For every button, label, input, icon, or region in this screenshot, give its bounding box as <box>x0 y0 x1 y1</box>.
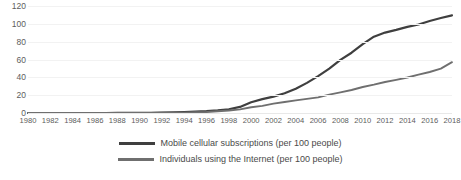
line-chart: 120100806040200 198019821984198619881990… <box>0 0 461 180</box>
x-axis-tick-label: 2002 <box>265 116 282 126</box>
y-axis-tick-label: 80 <box>0 38 26 47</box>
gridline <box>28 42 452 43</box>
plot-area <box>28 6 452 113</box>
chart-legend: Mobile cellular subscriptions (per 100 p… <box>0 138 461 178</box>
x-axis-tick-label: 1996 <box>198 116 215 126</box>
x-axis-tick-label: 1992 <box>153 116 170 126</box>
series-line <box>28 62 452 113</box>
x-axis-tick-label: 1988 <box>109 116 126 126</box>
x-axis-tick-label: 2014 <box>399 116 416 126</box>
legend-label-internet: Individuals using the Internet (per 100 … <box>159 154 342 165</box>
x-axis-tick-label: 2018 <box>444 116 461 126</box>
gridline <box>28 60 452 61</box>
x-axis-tick-label: 1982 <box>42 116 59 126</box>
gridline <box>28 6 452 7</box>
x-axis-tick-label: 1998 <box>220 116 237 126</box>
x-axis-tick-label: 2008 <box>332 116 349 126</box>
y-axis: 120100806040200 <box>0 0 26 120</box>
x-axis-tick-label: 2000 <box>243 116 260 126</box>
x-axis-tick-label: 2004 <box>287 116 304 126</box>
legend-swatch-internet <box>118 158 154 161</box>
x-axis-tick-label: 2012 <box>377 116 394 126</box>
gridline <box>28 24 452 25</box>
x-axis-tick-label: 1986 <box>86 116 103 126</box>
legend-item[interactable]: Mobile cellular subscriptions (per 100 p… <box>119 138 341 149</box>
y-axis-tick-label: 120 <box>0 2 26 11</box>
y-axis-tick-label: 40 <box>0 73 26 82</box>
x-axis-tick-label: 1984 <box>64 116 81 126</box>
series-line <box>28 15 452 113</box>
y-axis-tick-label: 20 <box>0 91 26 100</box>
x-axis-tick-label: 2006 <box>310 116 327 126</box>
gridline <box>28 77 452 78</box>
y-axis-tick-label: 100 <box>0 20 26 29</box>
legend-label-mobile: Mobile cellular subscriptions (per 100 p… <box>160 138 341 149</box>
x-axis-tick-label: 2016 <box>421 116 438 126</box>
gridline <box>28 113 452 114</box>
x-axis-tick-label: 1990 <box>131 116 148 126</box>
y-axis-tick-label: 60 <box>0 56 26 65</box>
x-axis-tick-label: 1994 <box>176 116 193 126</box>
x-axis: 1980198219841986198819901992199419961998… <box>28 116 456 128</box>
x-axis-tick-label: 1980 <box>20 116 37 126</box>
gridline <box>28 95 452 96</box>
x-axis-tick-label: 2010 <box>354 116 371 126</box>
legend-item[interactable]: Individuals using the Internet (per 100 … <box>118 154 342 165</box>
legend-swatch-mobile <box>119 142 155 145</box>
